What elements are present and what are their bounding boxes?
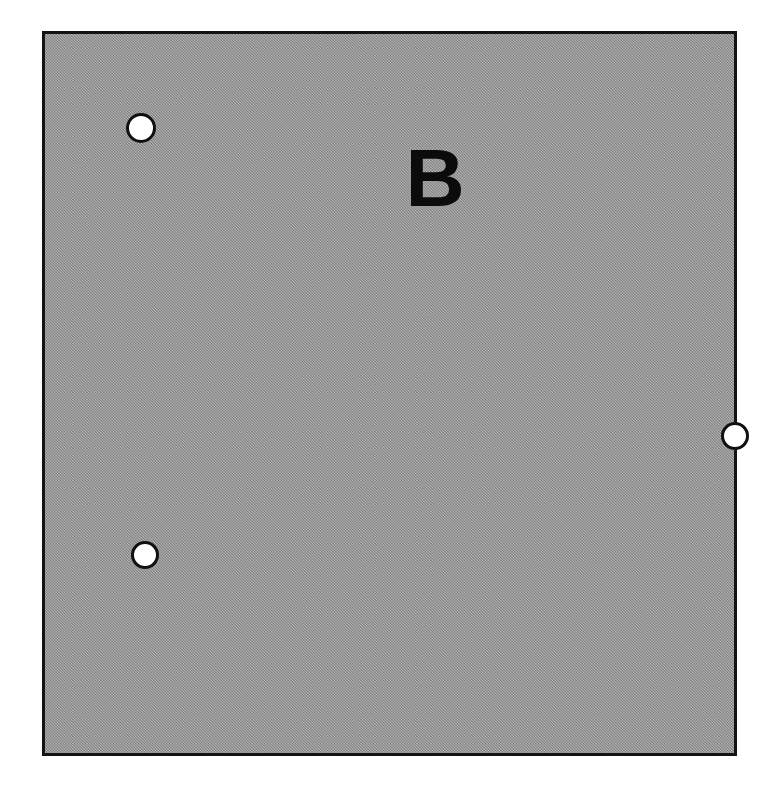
gray-panel-plate: B bbox=[42, 31, 737, 756]
panel-label: B bbox=[405, 137, 465, 219]
circle-hole-bottom-left bbox=[131, 541, 159, 569]
figure-root: B bbox=[0, 0, 778, 806]
circle-hole-top-left bbox=[126, 113, 156, 143]
circle-hole-right bbox=[721, 422, 749, 450]
